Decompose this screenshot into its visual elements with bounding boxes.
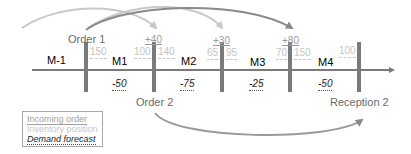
period-label-m3: M3 bbox=[250, 57, 265, 68]
inventory-bar5-left: 100 bbox=[339, 46, 356, 58]
period-label-m4: M4 bbox=[318, 57, 333, 68]
period-bar-5 bbox=[357, 42, 361, 92]
period-bar-3 bbox=[220, 42, 224, 92]
demand-forecast-m1: -50 bbox=[112, 79, 126, 91]
legend-box: Incoming order Inventory position Demand… bbox=[22, 111, 103, 147]
inventory-bar4-right: 150 bbox=[294, 48, 311, 60]
incoming-order-m3: +30 bbox=[213, 36, 230, 46]
arc-order2-to-reception2 bbox=[155, 113, 362, 135]
event-reception-2: Reception 2 bbox=[330, 97, 389, 108]
incoming-order-m4: +80 bbox=[282, 36, 299, 46]
incoming-order-m2: +40 bbox=[145, 35, 162, 45]
inventory-bar2-left: 100 bbox=[134, 47, 151, 59]
period-bar-1 bbox=[84, 42, 88, 92]
demand-forecast-m4: -50 bbox=[318, 79, 332, 91]
period-label-m-1: M-1 bbox=[47, 55, 66, 66]
period-bar-4 bbox=[288, 42, 292, 92]
period-label-m2: M2 bbox=[181, 56, 196, 67]
axis-arrowhead-icon bbox=[389, 67, 395, 73]
legend-demand-forecast: Demand forecast bbox=[27, 135, 96, 145]
event-order-2: Order 2 bbox=[136, 97, 173, 108]
period-bar-2 bbox=[152, 42, 156, 92]
demand-forecast-m2: -75 bbox=[180, 79, 194, 91]
event-order-1: Order 1 bbox=[68, 34, 105, 45]
inventory-bar1-right: 150 bbox=[90, 47, 107, 59]
demand-forecast-m3: -25 bbox=[249, 79, 263, 91]
inventory-bar4-left: 70 bbox=[276, 48, 287, 60]
period-label-m1: M1 bbox=[112, 56, 127, 67]
inventory-bar3-left: 65 bbox=[207, 48, 218, 60]
inventory-bar3-right: 95 bbox=[226, 48, 237, 60]
legend-inventory-position: Inventory position bbox=[27, 125, 98, 134]
inventory-bar2-right: 140 bbox=[158, 47, 175, 59]
